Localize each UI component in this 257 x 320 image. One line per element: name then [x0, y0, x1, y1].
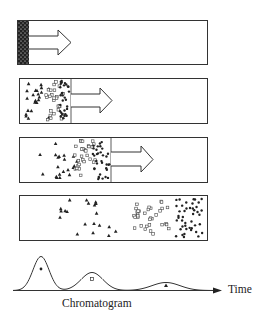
peak-marker-triangle-icon: [164, 284, 168, 288]
time-axis-label: Time: [228, 283, 252, 295]
chromatogram-trace: [13, 257, 214, 291]
chromatogram-caption: Chromatogram: [62, 297, 132, 309]
peak-marker-square-icon: [91, 278, 94, 281]
chromatogram-plot: [13, 257, 222, 294]
column-step-2: [20, 79, 208, 124]
axis-arrowhead-icon: [213, 288, 222, 294]
peak-marker-circle-icon: [40, 268, 43, 271]
chromatography-diagram: [0, 0, 257, 320]
sample-band: [18, 21, 29, 64]
column-step-1: [18, 21, 208, 65]
column-step-3: [20, 138, 208, 183]
